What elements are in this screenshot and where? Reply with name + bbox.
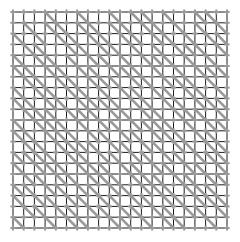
lattice-svg	[0, 0, 240, 242]
lattice-figure	[0, 0, 240, 242]
